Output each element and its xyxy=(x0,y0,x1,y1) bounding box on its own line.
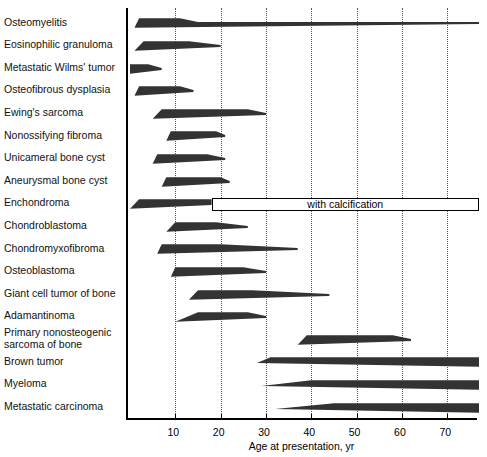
category-label: Metastatic carcinoma xyxy=(4,401,120,413)
category-label: Chondromyxofibroma xyxy=(4,243,120,255)
category-label: Metastatic Wilms' tumor xyxy=(4,62,120,74)
x-axis-title: Age at presentation, yr xyxy=(126,440,477,452)
age-range-band xyxy=(128,376,479,394)
age-range-band xyxy=(128,331,479,349)
with-calcification-label: with calcification xyxy=(212,198,479,210)
x-tick-label-60: 60 xyxy=(385,426,415,438)
x-tick-label-50: 50 xyxy=(340,426,370,438)
age-range-band xyxy=(128,127,479,145)
age-range-band xyxy=(128,240,479,258)
age-range-band xyxy=(128,218,479,236)
category-label: Giant cell tumor of bone xyxy=(4,288,120,300)
x-tick-label-20: 20 xyxy=(204,426,234,438)
age-range-band xyxy=(128,308,479,326)
age-range-band xyxy=(128,60,479,78)
category-label: Myeloma xyxy=(4,378,120,390)
age-range-band xyxy=(128,150,479,168)
plot-area: with calcification xyxy=(126,8,477,420)
x-tick-label-10: 10 xyxy=(158,426,188,438)
category-label: Aneurysmal bone cyst xyxy=(4,175,120,187)
age-range-band xyxy=(128,263,479,281)
age-range-band xyxy=(128,353,479,371)
age-range-band xyxy=(128,286,479,304)
category-label: Osteoblastoma xyxy=(4,265,120,277)
category-label: Unicameral bone cyst xyxy=(4,152,120,164)
category-label: Adamantinoma xyxy=(4,310,120,322)
age-range-band xyxy=(128,105,479,123)
x-tick-label-70: 70 xyxy=(430,426,460,438)
category-label: Chondroblastoma xyxy=(4,220,120,232)
category-label-column: OsteomyelitisEosinophilic granulomaMetas… xyxy=(0,0,126,420)
x-tick-label-30: 30 xyxy=(249,426,279,438)
category-label: Eosinophilic granuloma xyxy=(4,39,120,51)
category-label: Brown tumor xyxy=(4,356,120,368)
age-range-band xyxy=(128,399,479,417)
category-label: Osteofibrous dysplasia xyxy=(4,84,120,96)
age-range-band xyxy=(128,173,479,191)
category-label: Nonossifying fibroma xyxy=(4,130,120,142)
category-label: Primary nonosteogenic sarcoma of bone xyxy=(4,327,120,350)
age-at-presentation-chart: OsteomyelitisEosinophilic granulomaMetas… xyxy=(0,0,487,457)
category-label: Enchondroma xyxy=(4,197,120,209)
x-tick-label-40: 40 xyxy=(294,426,324,438)
age-range-band xyxy=(128,37,479,55)
age-range-band xyxy=(128,82,479,100)
age-range-band xyxy=(128,14,479,32)
category-label: Ewing's sarcoma xyxy=(4,107,120,119)
category-label: Osteomyelitis xyxy=(4,17,120,29)
